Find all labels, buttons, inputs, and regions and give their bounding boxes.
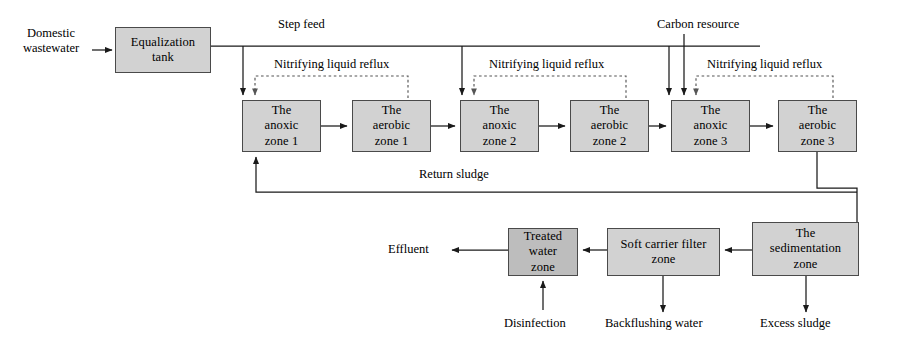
node-anoxic-zone-3[interactable]: Theanoxiczone 3 (671, 100, 750, 152)
node-aerobic-zone-3-label: Theaerobiczone 3 (797, 103, 838, 149)
label-return-sludge: Return sludge (419, 167, 489, 182)
node-equalization-tank[interactable]: Equalizationtank (115, 27, 211, 73)
node-aerobic-zone-1[interactable]: Theaerobiczone 1 (352, 100, 431, 152)
flow-nitrifying-reflux-2 (474, 76, 626, 98)
node-anoxic-zone-2[interactable]: Theanoxiczone 2 (460, 100, 539, 152)
node-anoxic-zone-3-label: Theanoxiczone 3 (692, 103, 730, 149)
label-nitrifying-reflux-1: Nitrifying liquid reflux (274, 57, 389, 72)
node-aerobic-zone-1-label: Theaerobiczone 1 (371, 103, 412, 149)
process-flow-diagram: Equalizationtank Theanoxiczone 1 Theaero… (0, 0, 900, 350)
label-step-feed: Step feed (278, 17, 325, 32)
label-domestic-wastewater: Domesticwastewater (10, 26, 92, 56)
label-disinfection: Disinfection (504, 316, 566, 331)
node-soft-carrier-filter-zone-label: Soft carrier filterzone (619, 237, 709, 268)
node-anoxic-zone-2-label: Theanoxiczone 2 (481, 103, 519, 149)
label-effluent: Effluent (388, 242, 429, 257)
node-anoxic-zone-1[interactable]: Theanoxiczone 1 (242, 100, 321, 152)
label-carbon-resource: Carbon resource (657, 17, 739, 32)
flow-aerobic3-to-sedimentation (817, 152, 857, 222)
node-soft-carrier-filter-zone[interactable]: Soft carrier filterzone (607, 228, 720, 276)
label-backflushing-water: Backflushing water (605, 316, 703, 331)
label-excess-sludge: Excess sludge (760, 316, 830, 331)
node-sedimentation-zone[interactable]: Thesedimentationzone (752, 222, 859, 276)
flow-nitrifying-reflux-3 (696, 76, 833, 98)
node-sedimentation-zone-label: Thesedimentationzone (768, 226, 843, 272)
node-treated-water-zone-label: Treatedwaterzone (522, 229, 564, 275)
node-aerobic-zone-2-label: Theaerobiczone 2 (589, 103, 630, 149)
label-nitrifying-reflux-3: Nitrifying liquid reflux (707, 57, 822, 72)
flow-return-sludge (256, 157, 857, 192)
node-equalization-tank-label: Equalizationtank (129, 35, 197, 66)
flow-nitrifying-reflux-1 (255, 76, 408, 98)
node-aerobic-zone-3[interactable]: Theaerobiczone 3 (778, 100, 857, 152)
node-anoxic-zone-1-label: Theanoxiczone 1 (263, 103, 301, 149)
node-treated-water-zone[interactable]: Treatedwaterzone (508, 228, 578, 276)
node-aerobic-zone-2[interactable]: Theaerobiczone 2 (570, 100, 649, 152)
label-nitrifying-reflux-2: Nitrifying liquid reflux (489, 57, 604, 72)
